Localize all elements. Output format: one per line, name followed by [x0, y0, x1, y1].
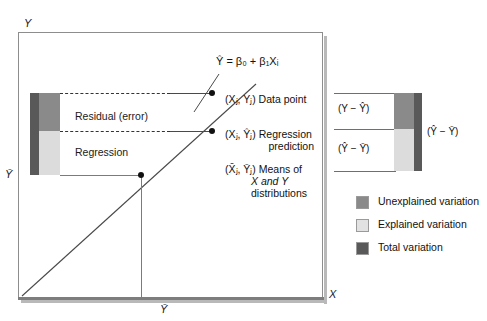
left-bar-explained-segment — [39, 131, 60, 175]
means-line3: distributions — [225, 187, 320, 199]
total-bracket-label: (Ŷ − Ȳ) — [427, 126, 458, 137]
regression-equation-label: Ŷ = β₀ + β₁Xᵢ — [216, 55, 278, 67]
mean-horizontal-line — [60, 175, 141, 176]
frame-shadow-right — [324, 36, 327, 304]
unexplained-swatch-icon — [356, 196, 369, 209]
prediction-connector — [170, 131, 212, 132]
frame-shadow-bottom — [21, 300, 327, 303]
legend-label-unexplained: Unexplained variation — [378, 195, 479, 207]
means-line2: X and Y — [225, 175, 320, 187]
regression-prediction-line2: prediction — [225, 140, 320, 152]
x-axis-line — [18, 297, 324, 300]
explained-bracket-label: (Ŷ − Ȳ) — [338, 143, 369, 154]
unexplained-bracket-label: (Y − Ŷ) — [338, 103, 369, 114]
legend: Unexplained variation Explained variatio… — [356, 194, 484, 263]
x-mean-tick-label: Ȳ — [160, 303, 167, 315]
right-bar-explained-segment — [394, 129, 414, 171]
right-tick-bottom — [334, 171, 396, 172]
regression-label: Regression — [75, 146, 128, 158]
figure-root: Y X Ȳ Ȳ Residual (error) Regression Ŷ … — [0, 0, 487, 321]
y-axis-label: Y — [24, 17, 31, 29]
cut-off-caption — [8, 0, 308, 8]
total-swatch-icon — [356, 242, 369, 255]
means-label: (X̄ⱼ, Ȳⱼ) Means of X and Y distribution… — [225, 163, 320, 199]
data-point-label: (Xⱼ, Yⱼ) Data point — [225, 93, 306, 105]
data-point-connector — [170, 93, 212, 94]
right-tick-mid — [334, 129, 396, 130]
left-bar-total-segment — [30, 93, 39, 175]
legend-item-unexplained: Unexplained variation — [356, 194, 484, 213]
legend-label-total: Total variation — [378, 241, 443, 253]
residual-top-dashed-line — [60, 93, 170, 94]
right-variation-group: (Y − Ŷ) (Ŷ − Ȳ) (Ŷ − Ȳ) — [332, 88, 482, 178]
explained-swatch-icon — [356, 219, 369, 232]
right-bar-unexplained-segment — [394, 93, 414, 129]
right-bar-total-segment — [414, 93, 422, 171]
legend-item-total: Total variation — [356, 240, 484, 259]
legend-label-explained: Explained variation — [378, 218, 467, 230]
residual-mid-dashed-line — [60, 131, 170, 132]
data-point-dot — [209, 90, 215, 96]
means-point-dot — [138, 172, 144, 178]
left-bar-unexplained-segment — [39, 93, 60, 131]
legend-item-explained: Explained variation — [356, 217, 484, 236]
residual-label: Residual (error) — [75, 110, 148, 122]
mean-vertical-line — [141, 175, 142, 297]
x-axis-label: X — [329, 288, 336, 300]
regression-prediction-label: (Xⱼ, Ŷⱼ) Regression prediction — [225, 128, 320, 152]
left-variation-bar — [30, 93, 60, 175]
means-line1: (X̄ⱼ, Ȳⱼ) Means of — [225, 163, 302, 175]
y-mean-tick-label: Ȳ — [5, 168, 12, 180]
right-tick-top — [334, 93, 396, 94]
regression-prediction-line1: (Xⱼ, Ŷⱼ) Regression — [225, 128, 312, 140]
right-variation-bar — [394, 93, 422, 171]
regression-prediction-dot — [209, 128, 215, 134]
